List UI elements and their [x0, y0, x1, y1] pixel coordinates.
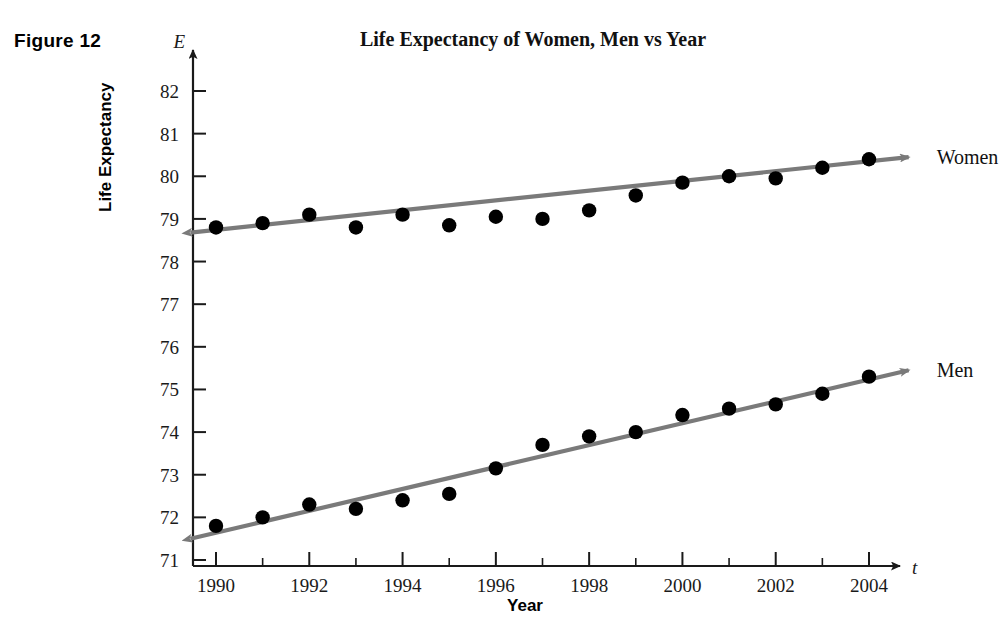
x-axis-tick-label: 2004 [850, 575, 889, 596]
data-point [862, 369, 876, 383]
data-point [535, 438, 549, 452]
x-axis: 19901992199419961998200020022004t [193, 552, 918, 596]
data-point [255, 216, 269, 230]
data-point [395, 493, 409, 507]
x-axis-tick-label: 1992 [290, 575, 328, 596]
series-labels: WomenMen [937, 146, 999, 381]
trendlines [190, 157, 908, 539]
data-point [815, 387, 829, 401]
data-point [722, 169, 736, 183]
x-axis-tick-label: 1998 [570, 575, 608, 596]
data-point [769, 171, 783, 185]
data-point [815, 161, 829, 175]
series-label-men: Men [937, 359, 974, 381]
y-axis-tick-label: 80 [160, 166, 179, 187]
data-points [209, 152, 876, 533]
data-point [629, 188, 643, 202]
data-point [582, 203, 596, 217]
data-point [629, 425, 643, 439]
x-axis-tick-label: 1990 [197, 575, 235, 596]
y-axis-tick-label: 71 [160, 550, 179, 571]
data-point [722, 401, 736, 415]
y-axis-tick-label: 75 [160, 379, 179, 400]
data-point [489, 210, 503, 224]
data-point [862, 152, 876, 166]
y-axis: 717273747576777879808182E [160, 31, 206, 571]
trendline-men [190, 370, 908, 538]
data-point [675, 408, 689, 422]
x-axis-tick-label: 1994 [384, 575, 423, 596]
data-point [582, 429, 596, 443]
data-point [209, 220, 223, 234]
y-axis-tick-label: 81 [160, 124, 179, 145]
series-label-women: Women [937, 146, 999, 168]
trendline-women [190, 157, 908, 232]
data-point [349, 220, 363, 234]
data-point [395, 207, 409, 221]
y-axis-tick-label: 82 [160, 81, 179, 102]
y-axis-tick-label: 73 [160, 465, 179, 486]
data-point [302, 207, 316, 221]
data-point [302, 497, 316, 511]
x-axis-tick-label: 1996 [477, 575, 515, 596]
data-point [675, 175, 689, 189]
data-point [489, 461, 503, 475]
y-axis-tick-label: 72 [160, 507, 179, 528]
scatter-plot-canvas: 717273747576777879808182E 19901992199419… [0, 0, 1006, 633]
y-axis-variable-label: E [172, 31, 185, 52]
data-point [535, 212, 549, 226]
y-axis-tick-label: 74 [160, 422, 180, 443]
y-axis-tick-label: 79 [160, 209, 179, 230]
figure-container: Figure 12 Life Expectancy of Women, Men … [0, 0, 1006, 633]
data-point [349, 502, 363, 516]
data-point [442, 218, 456, 232]
x-axis-tick-label: 2000 [663, 575, 701, 596]
y-axis-tick-label: 77 [160, 294, 179, 315]
y-axis-tick-label: 76 [160, 337, 179, 358]
data-point [769, 397, 783, 411]
x-axis-tick-label: 2002 [757, 575, 795, 596]
x-axis-variable-label: t [912, 557, 918, 578]
data-point [209, 519, 223, 533]
data-point [442, 487, 456, 501]
y-axis-tick-label: 78 [160, 252, 179, 273]
data-point [255, 510, 269, 524]
